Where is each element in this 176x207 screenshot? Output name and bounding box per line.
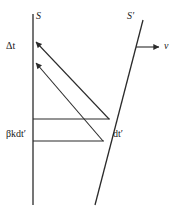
frame-s-label: S — [36, 11, 41, 21]
beta-k-dt-prime-label: βkdt′ — [6, 129, 26, 139]
diagram-canvas — [0, 0, 176, 207]
delta-t-label: Δt — [6, 41, 15, 51]
spacetime-diagram-figure: S S′ Δt v βkdt′ dt′ — [0, 0, 176, 207]
frame-s-prime-label: S′ — [127, 11, 134, 21]
velocity-label: v — [164, 41, 168, 51]
dt-prime-label: dt′ — [113, 129, 123, 139]
light-ray-upper — [36, 42, 109, 119]
